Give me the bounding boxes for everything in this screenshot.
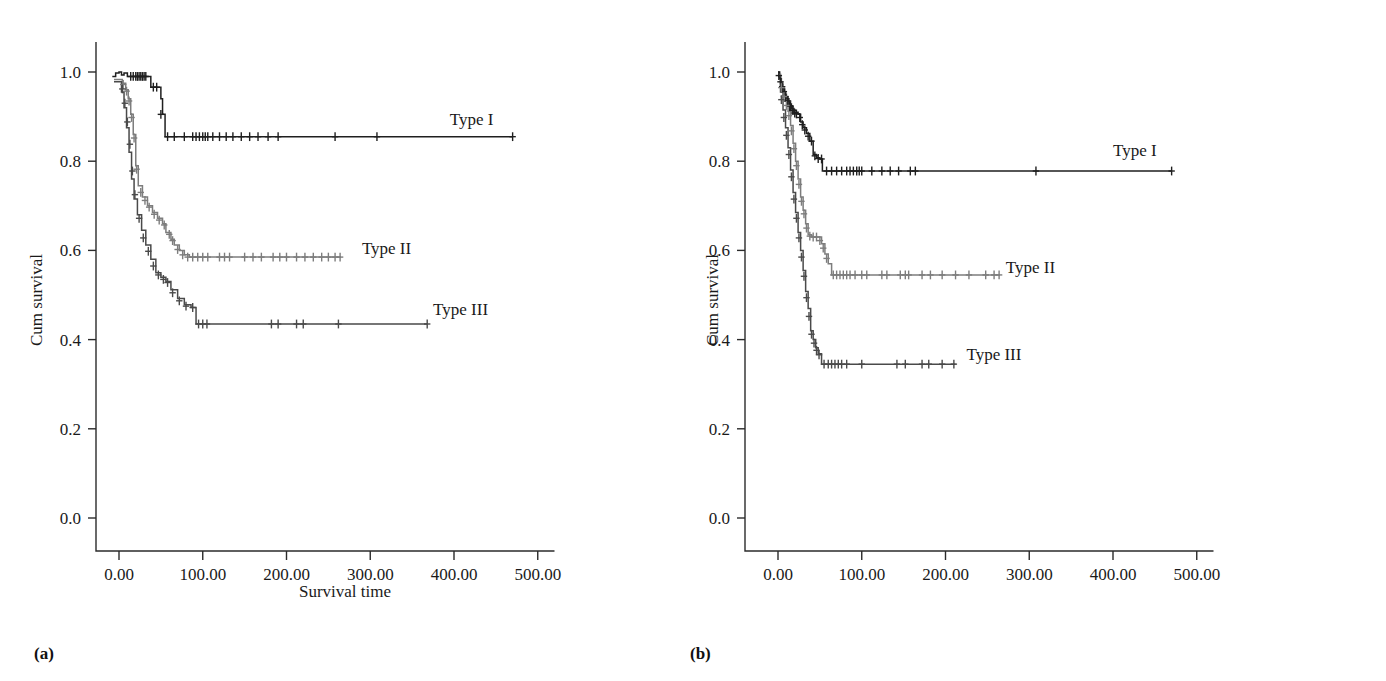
y-tick-label: 1.0 (60, 63, 81, 82)
x-tick-label: 100.00 (838, 565, 885, 584)
series-label-type-i: Type I (450, 110, 494, 129)
x-tick-label: 400.00 (431, 565, 478, 584)
x-tick-label: 0.00 (763, 565, 793, 584)
y-tick-label: 0.2 (709, 420, 730, 439)
series-label-type-ii: Type II (362, 239, 412, 258)
panel-b-y-axis-title: Cum survival (703, 254, 722, 346)
y-tick-label: 0.6 (60, 241, 81, 260)
y-tick-label: 0.0 (60, 509, 81, 528)
x-tick-label: 200.00 (922, 565, 969, 584)
x-tick-label: 500.00 (1173, 565, 1220, 584)
panel-a-y-axis-title: Cum survival (27, 254, 46, 346)
survival-curves-figure: 0.00.20.40.60.81.0 0.00100.00200.00300.0… (0, 0, 1386, 681)
series-label-type-iii: Type III (433, 300, 488, 319)
y-tick-label: 1.0 (709, 63, 730, 82)
y-tick-label: 0.2 (60, 420, 81, 439)
x-tick-label: 400.00 (1090, 565, 1137, 584)
x-tick-label: 300.00 (1006, 565, 1053, 584)
series-label-type-i: Type I (1113, 141, 1157, 160)
x-tick-label: 0.00 (104, 565, 134, 584)
y-tick-label: 0.8 (60, 152, 81, 171)
series-label-type-ii: Type II (1006, 258, 1056, 277)
panel-b-caption: (b) (690, 644, 711, 663)
y-tick-label: 0.0 (709, 509, 730, 528)
panel-a-caption: (a) (34, 644, 54, 663)
y-tick-label: 0.8 (709, 152, 730, 171)
y-tick-label: 0.4 (60, 331, 82, 350)
series-label-type-iii: Type III (966, 345, 1021, 364)
x-tick-label: 100.00 (179, 565, 226, 584)
panel-a-x-axis-title: Survival time (299, 582, 391, 601)
x-tick-label: 500.00 (514, 565, 561, 584)
